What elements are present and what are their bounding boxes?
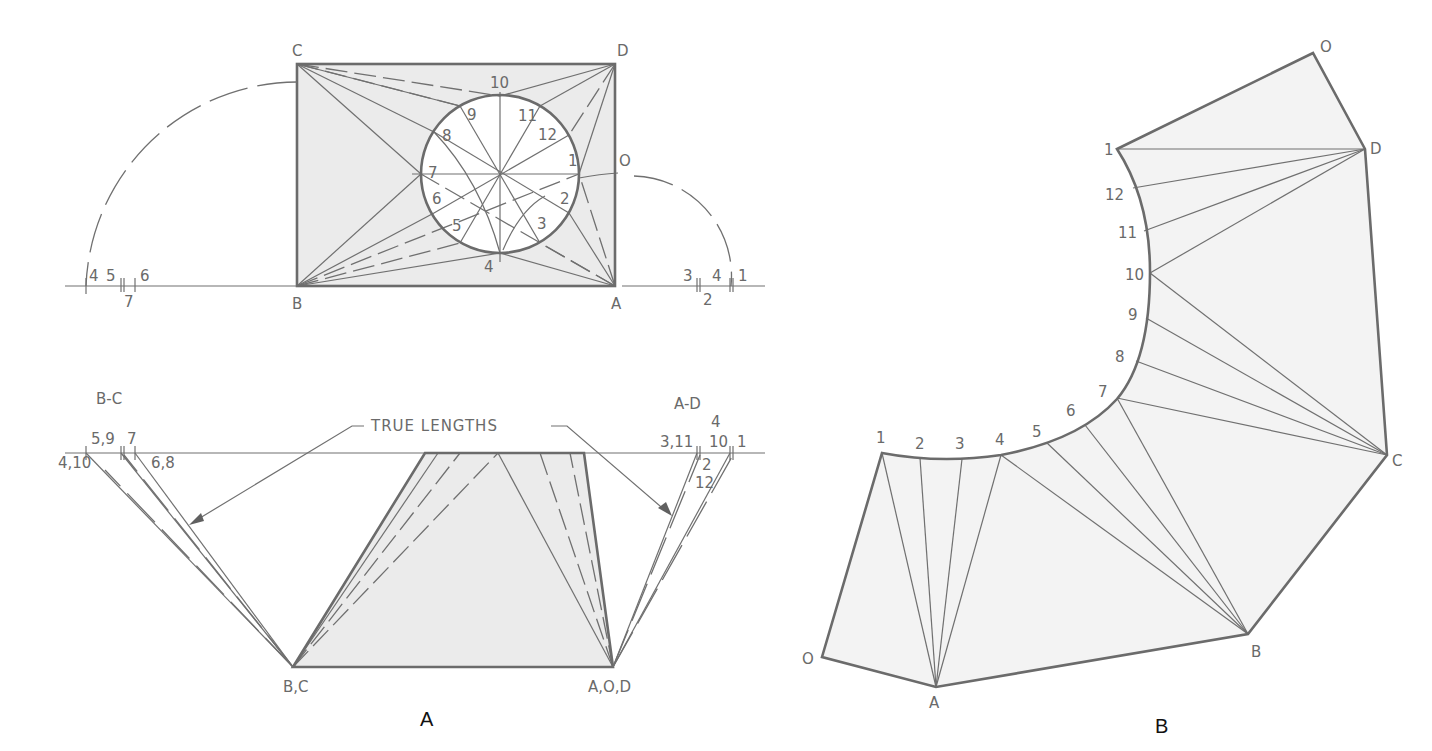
tl-label-3-11: 3,11 xyxy=(660,433,693,451)
dev-label-a: A xyxy=(929,694,940,712)
tl-label-6-8: 6,8 xyxy=(151,454,175,472)
tl-label-7: 7 xyxy=(127,430,137,448)
dev-label-b: B xyxy=(1251,643,1261,661)
plan-view xyxy=(65,64,765,294)
dev-point-3: 3 xyxy=(955,435,965,453)
circle-point-7: 7 xyxy=(428,164,438,182)
right-scale-1: 1 xyxy=(738,267,748,285)
circle-point-6: 6 xyxy=(432,190,442,208)
right-scale-2: 2 xyxy=(703,291,713,309)
left-scale-5: 5 xyxy=(106,267,116,285)
dev-label-d: D xyxy=(1370,140,1382,158)
dev-point-6: 6 xyxy=(1066,402,1076,420)
dev-point-12: 12 xyxy=(1105,186,1124,204)
caption-b: B xyxy=(1155,715,1168,737)
transition-development-drawing: C D B A O 1 2 3 4 5 6 7 8 9 10 11 12 4 5… xyxy=(0,0,1432,751)
dev-point-10: 10 xyxy=(1125,266,1144,284)
trapezoid-fill xyxy=(293,453,613,667)
label-a-o-d: A,O,D xyxy=(588,678,631,696)
tl-label-2: 2 xyxy=(702,456,712,474)
tl-label-4-10: 4,10 xyxy=(58,454,91,472)
label-d: D xyxy=(617,42,629,60)
dev-point-8: 8 xyxy=(1115,348,1125,366)
dev-point-5: 5 xyxy=(1032,423,1042,441)
circle-point-1: 1 xyxy=(568,152,578,170)
left-scale-7: 7 xyxy=(124,293,134,311)
dev-label-o-top: O xyxy=(1320,38,1332,56)
dev-point-9: 9 xyxy=(1128,306,1138,324)
dev-point-7: 7 xyxy=(1098,383,1108,401)
label-b-c: B,C xyxy=(283,678,309,696)
circle-point-10: 10 xyxy=(490,74,509,92)
dev-label-c: C xyxy=(1392,452,1402,470)
tl-label-12: 12 xyxy=(695,474,714,492)
a-d-label: A-D xyxy=(674,395,701,413)
left-scale-4: 4 xyxy=(89,267,99,285)
dev-point-11: 11 xyxy=(1118,224,1137,242)
dev-point-1-bottom: 1 xyxy=(876,429,886,447)
label-o: O xyxy=(619,152,631,170)
label-a: A xyxy=(611,295,622,313)
label-c: C xyxy=(292,42,302,60)
true-lengths-label: TRUE LENGTHS xyxy=(370,417,498,435)
dev-point-4: 4 xyxy=(995,431,1005,449)
tl-label-1: 1 xyxy=(737,433,747,451)
dev-label-o-bottom: O xyxy=(802,650,814,668)
circle-point-4: 4 xyxy=(484,258,494,276)
circle-point-8: 8 xyxy=(442,127,452,145)
tl-label-5-9: 5,9 xyxy=(91,430,115,448)
circle-point-3: 3 xyxy=(537,215,547,233)
tl-label-4: 4 xyxy=(711,413,721,431)
dev-point-1-top: 1 xyxy=(1104,141,1114,159)
circle-point-2: 2 xyxy=(560,190,570,208)
right-scale-4: 4 xyxy=(712,267,722,285)
circle-point-12: 12 xyxy=(538,126,557,144)
dev-point-2: 2 xyxy=(915,435,925,453)
right-scale-3: 3 xyxy=(683,267,693,285)
circle-point-11: 11 xyxy=(518,107,537,125)
label-b: B xyxy=(292,295,302,313)
left-scale-6: 6 xyxy=(140,267,150,285)
tl-label-10: 10 xyxy=(709,433,728,451)
b-c-label: B-C xyxy=(96,390,122,408)
circle-point-5: 5 xyxy=(452,217,462,235)
caption-a: A xyxy=(420,708,434,730)
circle-point-9: 9 xyxy=(467,106,477,124)
